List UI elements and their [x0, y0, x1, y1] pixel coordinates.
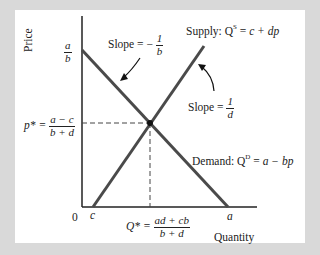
origin-label: 0	[72, 212, 78, 224]
y-axis-label: Price	[22, 28, 34, 52]
equilibrium-point	[147, 120, 153, 126]
y-intercept-label: ab	[64, 40, 72, 64]
supply-curve	[93, 46, 204, 207]
x-tick-a: a	[227, 211, 233, 223]
demand-slope-label: Slope = − 1b	[108, 33, 163, 57]
demand-curve	[82, 50, 228, 207]
x-tick-c: c	[90, 210, 95, 222]
equilibrium-price-label: p* = a − cb + d	[24, 114, 75, 138]
supply-slope-arrow	[202, 67, 214, 91]
demand-equation-label: Demand: QD = a − bp	[192, 154, 293, 168]
supply-slope-label: Slope = 1d	[188, 96, 234, 120]
supply-equation-label: Supply: QS = c + dp	[186, 24, 279, 38]
equilibrium-quantity-label: Q* = ad + cbb + d	[126, 215, 190, 239]
x-axis-label: Quantity	[214, 232, 254, 244]
demand-slope-arrow	[123, 58, 140, 78]
